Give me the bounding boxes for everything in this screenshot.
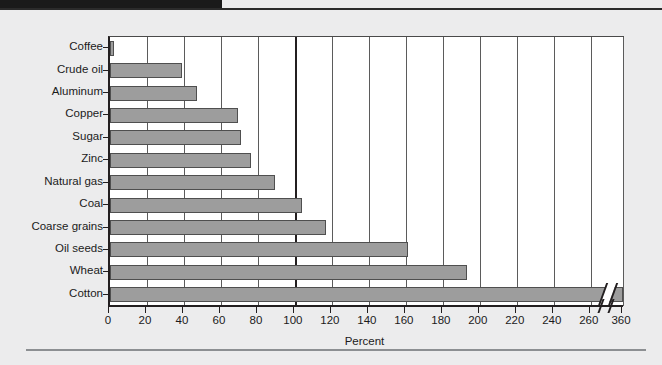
bar-coarse-grains [110, 220, 326, 235]
x-axis-tick-260 [589, 307, 590, 313]
x-axis-tick-40 [182, 307, 183, 313]
x-axis-tick-100 [293, 307, 294, 313]
bar-row [110, 108, 623, 123]
x-axis-ticklabel-160: 160 [394, 315, 413, 327]
x-axis-tick-60 [219, 307, 220, 313]
bar-row [110, 175, 623, 190]
x-axis-tick-220 [515, 307, 516, 313]
x-axis-title: Percent [108, 335, 621, 347]
bar-cotton [110, 287, 623, 302]
x-axis-ticklabel-140: 140 [357, 315, 376, 327]
x-axis-ticklabel-180: 180 [431, 315, 450, 327]
y-axis-label-coarse-grains: Coarse grains [31, 221, 103, 233]
x-axis-tick-80 [256, 307, 257, 313]
bar-row [110, 41, 623, 56]
x-axis-ticklabel-60: 60 [213, 315, 226, 327]
y-axis-label-sugar: Sugar [72, 131, 103, 143]
bar-chart-figure: CoffeeCrude oilAluminumCopperSugarZincNa… [0, 10, 662, 348]
bar-copper [110, 108, 238, 123]
bar-row [110, 242, 623, 257]
x-axis-tick-360 [621, 307, 622, 313]
top-black-tab [0, 0, 222, 8]
x-axis-tick-240 [552, 307, 553, 313]
bar-coffee [110, 41, 114, 56]
x-axis-ticklabel-80: 80 [250, 315, 263, 327]
bar-row [110, 220, 623, 235]
x-axis-ticklabel-240: 240 [542, 315, 561, 327]
bar-row [110, 198, 623, 213]
y-axis-label-aluminum: Aluminum [52, 86, 103, 98]
y-axis-label-zinc: Zinc [81, 153, 103, 165]
y-axis-label-cotton: Cotton [69, 288, 103, 300]
bars-layer [110, 37, 623, 306]
bar-oil-seeds [110, 242, 408, 257]
x-axis-ticklabel-40: 40 [176, 315, 189, 327]
plot-area [108, 36, 624, 306]
bar-zinc [110, 153, 251, 168]
x-axis-tick-140 [367, 307, 368, 313]
x-axis-ticklabel-100: 100 [283, 315, 302, 327]
bottom-divider-rule [26, 349, 646, 351]
bar-row [110, 153, 623, 168]
gridline-360 [623, 37, 624, 306]
y-axis-label-natural-gas: Natural gas [44, 176, 103, 188]
x-axis-ticklabel-220: 220 [505, 315, 524, 327]
bar-row [110, 86, 623, 101]
bar-row [110, 265, 623, 280]
y-axis-label-crude-oil: Crude oil [57, 64, 103, 76]
y-axis-label-wheat: Wheat [70, 265, 103, 277]
bar-crude-oil [110, 63, 182, 78]
bar-coal [110, 198, 302, 213]
x-axis-tick-20 [145, 307, 146, 313]
x-axis-line [108, 305, 623, 307]
x-axis-ticklabel-120: 120 [320, 315, 339, 327]
bar-natural-gas [110, 175, 275, 190]
bar-wheat [110, 265, 467, 280]
x-axis-ticklabel-20: 20 [139, 315, 152, 327]
x-axis-ticklabel-360: 360 [611, 315, 630, 327]
y-axis-label-coal: Coal [79, 198, 103, 210]
x-axis-tick-0 [108, 307, 109, 313]
bar-sugar [110, 130, 241, 145]
y-axis-label-oil-seeds: Oil seeds [55, 243, 103, 255]
x-axis-tick-200 [478, 307, 479, 313]
x-axis-tick-180 [441, 307, 442, 313]
y-axis-label-coffee: Coffee [69, 41, 103, 53]
y-axis-label-copper: Copper [65, 108, 103, 120]
x-axis-tick-160 [404, 307, 405, 313]
y-axis-labels: CoffeeCrude oilAluminumCopperSugarZincNa… [0, 36, 103, 305]
x-axis-ticklabel-0: 0 [105, 315, 111, 327]
bar-row [110, 130, 623, 145]
bar-row [110, 287, 623, 302]
bar-aluminum [110, 86, 197, 101]
bar-row [110, 63, 623, 78]
x-axis-ticklabel-200: 200 [468, 315, 487, 327]
x-axis-ticklabel-260: 260 [579, 315, 598, 327]
x-axis-tick-120 [330, 307, 331, 313]
